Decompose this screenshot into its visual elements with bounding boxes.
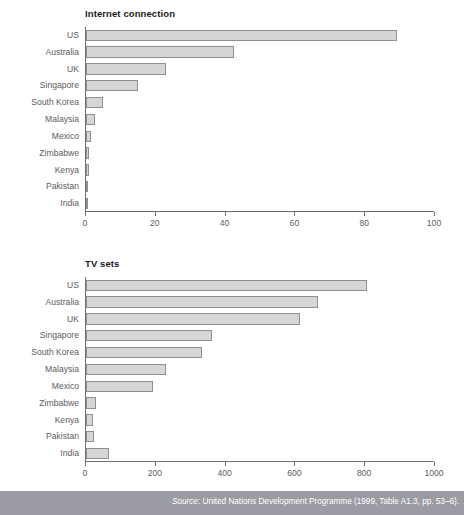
x-axis-tick [225,462,226,466]
bar [86,30,397,41]
source-caption: Source: United Nations Development Progr… [172,497,459,506]
plot-area-tv: USAustraliaUKSingaporeSouth KoreaMalaysi… [85,277,434,462]
bar [86,313,300,324]
bar [86,63,166,74]
x-axis-tick [364,212,365,216]
category-label: Singapore [40,328,79,342]
plot-area-internet: USAustraliaUKSingaporeSouth KoreaMalaysi… [85,27,434,212]
bar [86,364,166,375]
category-label: US [67,28,79,42]
bar-row: Zimbabwe [85,395,434,412]
x-axis-tick [294,212,295,216]
bar [86,164,89,175]
x-axis-tick-label: 400 [217,468,231,478]
x-axis-tick [85,212,86,216]
x-axis-tick [294,462,295,466]
bar-row: US [85,27,434,44]
bar [86,431,94,442]
bar-row: Pakistan [85,178,434,195]
category-label: Pakistan [46,429,79,443]
x-axis-tick-label: 0 [83,218,88,228]
chart-internet-connection: Internet connection USAustraliaUKSingapo… [0,8,464,248]
bar-row: Mexico [85,128,434,145]
bar [86,181,88,192]
source-body: United Nations Development Programme (19… [200,497,459,506]
bar-row: Singapore [85,327,434,344]
x-axis-tick [434,462,435,466]
x-axis-tick-label: 20 [150,218,160,228]
bar [86,80,138,91]
category-label: India [60,446,79,460]
x-axis-tick-label: 40 [220,218,230,228]
chart-tv-sets: TV sets USAustraliaUKSingaporeSouth Kore… [0,258,464,490]
bar [86,296,318,307]
x-axis-tick-label: 600 [287,468,301,478]
bar-row: South Korea [85,94,434,111]
bar-row: Australia [85,294,434,311]
category-label: South Korea [31,95,79,109]
bar [86,147,89,158]
bar [86,397,96,408]
bar [86,448,109,459]
bar-row: Kenya [85,162,434,179]
figure-page: Internet connection USAustraliaUKSingapo… [0,0,464,515]
x-axis-tick-label: 100 [427,218,441,228]
bar [86,381,153,392]
bar-row: South Korea [85,344,434,361]
category-label: Australia [46,45,79,59]
category-label: UK [67,312,79,326]
category-label: Pakistan [46,179,79,193]
x-axis-tick [155,212,156,216]
category-label: Kenya [55,163,79,177]
bar-row: Zimbabwe [85,145,434,162]
bar [86,46,234,57]
bar-row: UK [85,61,434,78]
bar [86,280,367,291]
category-label: Zimbabwe [39,396,79,410]
bar-row: Malaysia [85,361,434,378]
bar-row: US [85,277,434,294]
x-axis-tick-label: 60 [290,218,300,228]
bar-row: UK [85,311,434,328]
category-label: South Korea [31,345,79,359]
chart-title-tv: TV sets [85,258,120,269]
category-label: Mexico [52,379,79,393]
category-label: India [60,196,79,210]
x-axis-tick-label: 0 [83,468,88,478]
bar [86,114,95,125]
bar-row: Pakistan [85,428,434,445]
x-axis-tick [155,462,156,466]
x-axis-tick-label: 200 [148,468,162,478]
x-axis-tick-label: 80 [359,218,369,228]
category-label: UK [67,62,79,76]
bar [86,97,103,108]
bar-row: India [85,195,434,212]
bar [86,198,88,209]
x-axis-tick-label: 800 [357,468,371,478]
bar-row: Australia [85,44,434,61]
bar-row: India [85,445,434,462]
bar-row: Kenya [85,412,434,429]
x-axis-tick [364,462,365,466]
x-axis-tick [225,212,226,216]
category-label: Zimbabwe [39,146,79,160]
category-label: Mexico [52,129,79,143]
category-label: Singapore [40,78,79,92]
bar [86,330,212,341]
category-label: Malaysia [45,362,79,376]
chart-title-internet: Internet connection [85,8,175,19]
bar [86,131,91,142]
bar-row: Mexico [85,378,434,395]
bar [86,347,202,358]
category-label: Kenya [55,413,79,427]
bar-row: Malaysia [85,111,434,128]
category-label: Malaysia [45,112,79,126]
category-label: US [67,278,79,292]
category-label: Australia [46,295,79,309]
bar-row: Singapore [85,77,434,94]
x-axis-tick [85,462,86,466]
x-axis-tick-label: 1000 [424,468,443,478]
x-axis-tick [434,212,435,216]
bar [86,414,93,425]
source-prefix: Source: [172,497,200,506]
